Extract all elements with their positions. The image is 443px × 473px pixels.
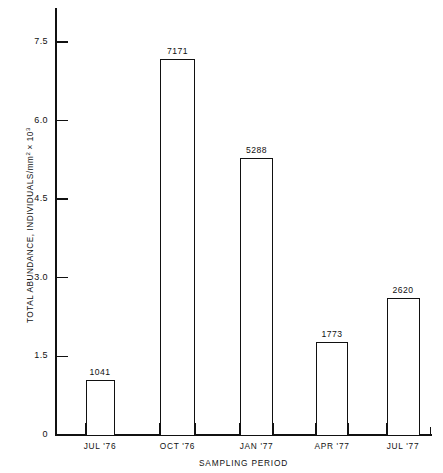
y-tick-5	[56, 41, 68, 42]
x-tick-3-left	[315, 423, 316, 435]
y-tick-2	[56, 277, 68, 278]
x-tick-4-right	[419, 423, 420, 435]
x-tick-label-2: JAN '77	[217, 441, 297, 451]
x-tick-1-right	[194, 423, 195, 435]
x-tick-1-left	[159, 423, 160, 435]
y-tick-label-0: 0	[8, 429, 48, 439]
x-tick-2-left	[239, 423, 240, 435]
bar-chart: TOTAL ABUNDANCE, INDIVIDUALS/mm2 × 103 0…	[0, 0, 443, 473]
y-tick-label-1: 1.5	[8, 350, 48, 360]
bar-4[interactable]	[387, 298, 420, 435]
x-tick-label-1: OCT '76	[138, 441, 218, 451]
y-tick-label-5: 7.5	[8, 36, 48, 46]
bar-value-label-0: 1041	[65, 367, 135, 377]
y-tick-1	[56, 356, 68, 357]
x-tick-label-0: JUL '76	[60, 441, 140, 451]
bar-value-label-3: 1773	[297, 329, 367, 339]
y-axis-line	[55, 8, 57, 436]
x-tick-label-3: APR '77	[292, 441, 372, 451]
x-tick-4-left	[386, 423, 387, 435]
y-tick-label-4: 6.0	[8, 115, 48, 125]
y-axis-title-exponent-scale: 3	[25, 128, 31, 131]
x-tick-3-right	[347, 423, 348, 435]
y-axis-title-multiplier: × 10	[26, 131, 35, 152]
bar-value-label-2: 5288	[222, 145, 292, 155]
bar-1[interactable]	[160, 59, 195, 435]
y-tick-0	[56, 434, 68, 435]
x-tick-0-right	[114, 423, 115, 435]
y-tick-label-3: 4.5	[8, 193, 48, 203]
x-tick-2-right	[272, 423, 273, 435]
y-axis-title-text: TOTAL ABUNDANCE, INDIVIDUALS/mm	[26, 156, 35, 323]
y-axis-title-exponent-area: 2	[25, 152, 31, 155]
bar-value-label-1: 7171	[143, 46, 213, 56]
bar-0[interactable]	[86, 380, 115, 435]
y-tick-3	[56, 198, 68, 199]
bar-3[interactable]	[316, 342, 348, 435]
x-axis-title: SAMPLING PERIOD	[55, 458, 432, 468]
bar-2[interactable]	[240, 158, 273, 435]
x-axis-end-tick	[430, 427, 431, 435]
x-tick-label-4: JUL '77	[363, 441, 443, 451]
x-tick-0-left	[85, 423, 86, 435]
y-tick-label-2: 3.0	[8, 272, 48, 282]
y-tick-4	[56, 120, 68, 121]
bar-value-label-4: 2620	[368, 285, 438, 295]
